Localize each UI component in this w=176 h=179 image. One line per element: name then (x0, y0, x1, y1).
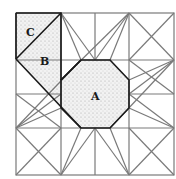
quilt-block-diagram: C B A (0, 0, 176, 179)
label-a: A (90, 90, 100, 103)
label-c: C (26, 26, 35, 39)
label-b: B (40, 55, 49, 68)
